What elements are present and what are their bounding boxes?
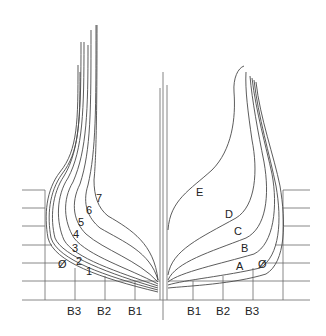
label-aft-2: 2 — [76, 255, 82, 267]
section-aft-4 — [66, 45, 158, 284]
label-fwd-E: E — [196, 186, 203, 198]
aft-sections — [46, 25, 158, 292]
buttock-label-right-B2: B2 — [216, 305, 230, 317]
buttock-label-right-B1: B1 — [187, 305, 201, 317]
label-fwd-0: Ø — [258, 258, 267, 270]
body-plan-diagram: Ø 1 2 3 4 5 6 7 E D C B A Ø B3 B2 B1 B1 … — [0, 0, 326, 336]
buttock-label-left-B3: B3 — [67, 305, 81, 317]
centerline — [160, 72, 167, 320]
section-fwd-C — [168, 76, 267, 280]
label-fwd-D: D — [225, 208, 233, 220]
label-fwd-B: B — [241, 242, 248, 254]
aft-station-labels: Ø 1 2 3 4 5 6 7 — [58, 192, 102, 277]
label-aft-6: 6 — [86, 204, 92, 216]
buttock-label-left-B2: B2 — [97, 305, 111, 317]
label-fwd-C: C — [234, 225, 242, 237]
section-fwd-E — [168, 66, 244, 230]
buttock-label-right-B3: B3 — [245, 305, 259, 317]
section-aft-5 — [74, 30, 158, 282]
fwd-sections — [168, 66, 283, 288]
label-aft-1: 1 — [86, 265, 92, 277]
buttock-label-left-B1: B1 — [128, 305, 142, 317]
label-aft-7: 7 — [96, 192, 102, 204]
label-aft-5: 5 — [78, 216, 84, 228]
section-fwd-A — [168, 80, 279, 285]
section-aft-7 — [94, 25, 158, 280]
label-aft-3: 3 — [72, 242, 78, 254]
label-aft-4: 4 — [73, 228, 79, 240]
label-aft-0: Ø — [58, 258, 67, 270]
label-fwd-A: A — [236, 260, 244, 272]
